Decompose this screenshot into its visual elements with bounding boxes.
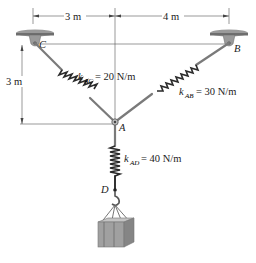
dim-label-3m-top: 3 m xyxy=(65,11,81,22)
svg-text:= 20 N/m: = 20 N/m xyxy=(95,71,135,82)
svg-text:AD: AD xyxy=(129,159,139,167)
svg-text:k: k xyxy=(78,71,83,82)
joint-a xyxy=(112,119,118,125)
svg-text:AB: AB xyxy=(184,92,194,100)
label-d: D xyxy=(100,184,109,195)
svg-text:k: k xyxy=(179,86,184,97)
label-a: A xyxy=(118,122,126,133)
spring-ad xyxy=(110,146,120,176)
svg-text:k: k xyxy=(124,153,129,164)
dim-label-3m-left: 3 m xyxy=(6,76,22,87)
svg-text:AC: AC xyxy=(83,77,93,85)
hook-icon xyxy=(112,191,119,205)
spring-label-ad: k AD = 40 N/m xyxy=(124,153,181,167)
label-b: B xyxy=(234,43,241,54)
svg-text:= 30 N/m: = 30 N/m xyxy=(196,86,236,97)
spring-ab xyxy=(157,65,198,91)
spring-label-ac: k AC = 20 N/m xyxy=(78,71,135,85)
rods xyxy=(35,43,229,190)
crate xyxy=(98,218,134,247)
dim-label-4m-top: 4 m xyxy=(163,11,179,22)
label-c: C xyxy=(39,39,47,50)
spring-system-diagram: 3 m 4 m 3 m xyxy=(0,0,256,263)
svg-text:= 40 N/m: = 40 N/m xyxy=(141,153,181,164)
spring-label-ab: k AB = 30 N/m xyxy=(179,86,236,100)
